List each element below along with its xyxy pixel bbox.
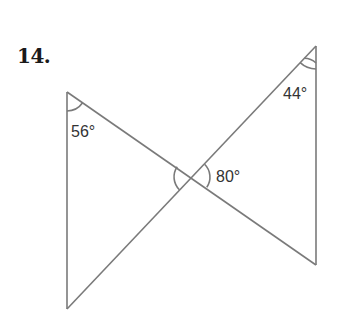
geometry-diagram: 56° 44° 80°	[0, 0, 342, 318]
angle-label-80: 80°	[216, 168, 240, 185]
angle-label-44: 44°	[283, 85, 307, 102]
angle-label-56: 56°	[71, 123, 95, 140]
angle-arc-44-inner	[300, 63, 316, 69]
angle-arc-80	[205, 164, 210, 187]
transversal-line-ascending	[67, 46, 316, 309]
angle-arc-44-outer	[304, 58, 316, 63]
angle-arc-56	[67, 103, 83, 111]
